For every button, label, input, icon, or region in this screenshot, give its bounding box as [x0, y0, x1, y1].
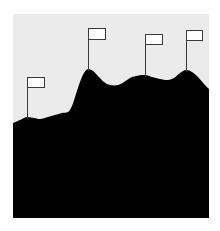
flag-banner: [89, 29, 106, 40]
flag-banner: [187, 31, 203, 41]
flag-banner: [146, 35, 163, 45]
mountain-flags-illustration: [0, 0, 220, 231]
flag-banner: [28, 78, 45, 88]
